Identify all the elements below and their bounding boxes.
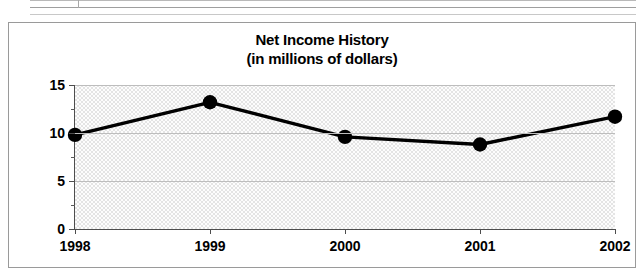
table-fragment-rule-middle xyxy=(30,7,636,8)
x-axis-tick xyxy=(615,229,616,234)
table-fragment-rule-top xyxy=(30,0,636,1)
y-axis-tick xyxy=(69,181,75,182)
line-series xyxy=(75,85,615,229)
table-fragment-column-divider xyxy=(78,0,79,8)
data-point-marker xyxy=(68,128,82,142)
x-axis-tick xyxy=(210,229,211,234)
gridline-y xyxy=(75,181,615,182)
y-axis-tick xyxy=(69,85,75,86)
y-axis-minor-tick xyxy=(71,109,75,110)
x-axis-tick xyxy=(480,229,481,234)
y-axis-minor-tick xyxy=(71,157,75,158)
y-axis-minor-tick xyxy=(71,205,75,206)
gridline-y xyxy=(75,85,615,86)
data-point-marker xyxy=(473,137,487,151)
x-axis-label: 1999 xyxy=(194,238,225,254)
y-axis-label: 5 xyxy=(57,173,65,189)
x-axis-label: 2000 xyxy=(329,238,360,254)
y-axis-tick xyxy=(69,133,75,134)
chart-title-block: Net Income History (in millions of dolla… xyxy=(9,30,635,68)
x-axis-label: 2001 xyxy=(464,238,495,254)
y-axis-label: 15 xyxy=(49,77,65,93)
partial-table-fragment xyxy=(30,0,636,15)
y-axis-label: 0 xyxy=(57,221,65,237)
table-fragment-rule-bottom xyxy=(30,14,636,15)
chart-title: Net Income History xyxy=(9,30,635,49)
data-point-marker xyxy=(338,130,352,144)
gridline-y xyxy=(75,133,615,134)
x-axis-label: 1998 xyxy=(59,238,90,254)
data-point-marker xyxy=(608,109,622,123)
data-point-marker xyxy=(203,95,217,109)
x-axis-label: 2002 xyxy=(599,238,630,254)
plot-area: 05101519981999200020012002 xyxy=(74,85,615,230)
y-axis-label: 10 xyxy=(49,125,65,141)
chart-frame: Net Income History (in millions of dolla… xyxy=(8,22,636,268)
chart-subtitle: (in millions of dollars) xyxy=(9,49,635,68)
x-axis-tick xyxy=(75,229,76,234)
x-axis-tick xyxy=(345,229,346,234)
